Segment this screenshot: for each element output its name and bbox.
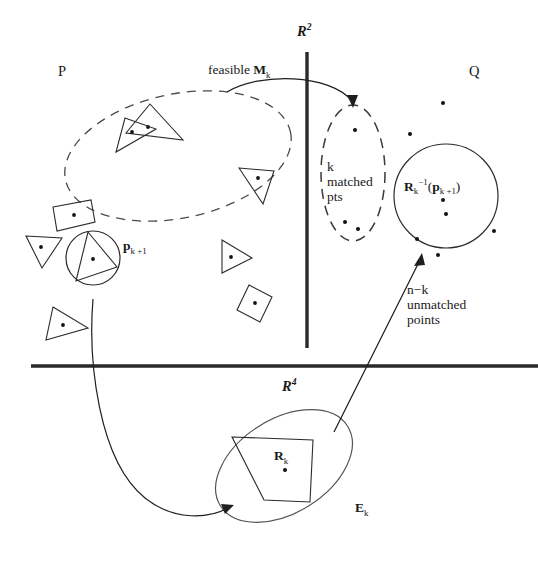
scene-point-dot [408,132,412,136]
pattern-triangle-mid-right [222,240,252,273]
scene-point-dot [353,128,357,132]
feasible-mapping-arc [227,79,352,101]
label-inverse-transform-of-p: Rk−1(pk +1) [404,178,460,197]
scene-point-dot [492,229,496,233]
scene-point-dot [441,101,445,105]
feasible-mapping-label: feasible Mk [208,62,271,81]
feasible-symbol-subscript: k [266,70,270,80]
pattern-point-dot [39,245,43,249]
scene-point-dot [356,227,360,231]
r2-exponent: 2 [307,21,312,32]
pattern-point-dot [130,130,134,134]
inverse-R-exponent: −1 [418,177,427,187]
scene-point-dot [415,237,419,241]
pattern-point-dot [61,323,65,327]
inverse-arg-subscript: k +1 [440,186,456,196]
unmatched-points-label: n−k unmatched points [407,282,466,327]
matched-count-k: k [327,159,373,174]
pattern-triangle-upper-left [116,118,156,152]
scene-set-label-Q: Q [469,63,479,79]
p-symbol: p [123,238,131,253]
inverse-R-subscript: k [414,186,418,196]
matched-word-matched: matched [327,174,373,189]
pattern-triangle-far-left [26,236,62,268]
pattern-set-label-P: P [58,63,66,79]
space-label-R2: R2 [297,22,311,39]
p-subscript: k +1 [131,246,147,256]
transform-center-dot [283,468,287,472]
unmatched-word-points: points [407,312,466,327]
scene-point-dot [436,253,440,257]
pattern-point-dot [91,257,95,261]
scene-point-dot [441,198,445,202]
pattern-triangle-upper-right [126,104,183,140]
transform-R-symbol: R [274,448,284,463]
pattern-triangle-lower-left [46,307,88,340]
project-arrow-arrowhead [414,253,425,266]
pattern-point-dot [256,176,260,180]
label-ellipse-Ek: Ek [355,500,368,519]
inverse-R-symbol: R [404,179,414,194]
matched-points-label: k matched pts [327,159,373,204]
dashed-ellipse-pattern-region [53,71,304,240]
inverse-paren-close: ) [456,179,461,194]
unmatched-count-expression: n−k [407,282,466,297]
space-label-R4: R4 [282,377,296,394]
r4-exponent: 4 [292,376,297,387]
E-symbol: E [355,500,364,515]
scene-point-dot [444,212,448,216]
lift-to-R4-curved-arrow [92,299,228,516]
pattern-point-dot [72,213,76,217]
label-transform-Rk: Rk [274,448,288,467]
inverse-arg-p: p [432,179,440,194]
matched-word-pts: pts [327,189,373,204]
figure-canvas: P Q R2 R4 feasible Mk k matched pts n−k … [0,0,538,564]
E-subscript: k [364,508,368,518]
pattern-point-dot [229,255,233,259]
label-p-k-plus-1: pk +1 [123,238,147,257]
transform-R-subscript: k [284,456,288,466]
feasible-symbol-M: M [253,62,266,77]
unmatched-word-unmatched: unmatched [407,297,466,312]
transformed-pattern-polygon [232,437,313,502]
pattern-triangle-inner-right [239,168,274,204]
pattern-point-dot [253,301,257,305]
scene-point-dot [343,220,347,224]
pattern-triangle-circled [76,232,117,281]
